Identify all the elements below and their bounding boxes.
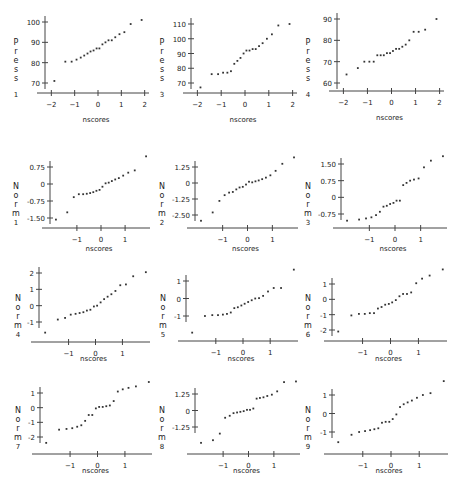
data-point	[75, 313, 77, 315]
data-point	[363, 61, 365, 63]
data-point	[364, 430, 366, 432]
x-tick-label: −2	[46, 101, 56, 109]
data-point	[271, 394, 273, 396]
data-point	[377, 308, 379, 310]
x-tick-label: −1	[362, 99, 372, 107]
y-tick-label: 0	[31, 405, 35, 413]
x-tick-label: 1	[416, 349, 420, 357]
data-point	[90, 51, 92, 53]
data-point	[66, 428, 68, 430]
data-point	[293, 269, 295, 271]
data-point	[230, 70, 232, 72]
x-axis-label: nscores	[380, 245, 407, 253]
y-axis-label-index: 7	[16, 443, 20, 451]
data-point	[239, 187, 241, 189]
y-axis-label: r	[306, 424, 310, 433]
data-point	[337, 441, 339, 443]
data-point	[222, 72, 224, 74]
data-point	[244, 303, 246, 305]
data-point	[102, 43, 104, 45]
y-axis-label: s	[160, 65, 164, 74]
y-tick-label: 80	[323, 37, 332, 45]
x-axis-label: nscores	[376, 114, 403, 122]
data-point	[266, 395, 268, 397]
y-tick-label: 0	[41, 181, 45, 189]
data-point	[92, 191, 94, 193]
data-point	[255, 48, 257, 50]
x-tick-label: −1	[217, 236, 227, 244]
x-axis-label: nscores	[376, 467, 403, 475]
y-axis-label-index: 1	[14, 91, 18, 99]
data-point	[423, 166, 425, 168]
y-axis-label: r	[161, 312, 165, 321]
data-point	[132, 275, 134, 277]
y-axis-label: N	[305, 406, 311, 415]
y-axis-label: s	[160, 74, 164, 83]
y-axis-label: r	[16, 312, 20, 321]
y-axis-label: s	[306, 74, 310, 83]
data-point	[265, 177, 267, 179]
data-point	[125, 284, 127, 286]
data-point	[410, 292, 412, 294]
data-point	[275, 170, 277, 172]
x-axis-label: nscores	[80, 355, 107, 363]
data-point	[211, 73, 213, 75]
data-point	[55, 219, 57, 221]
y-tick-label: -0.75	[318, 211, 336, 219]
y-axis-label: P	[306, 38, 311, 47]
data-point	[249, 50, 251, 52]
y-tick-label: -2	[28, 434, 35, 442]
data-point	[357, 67, 359, 69]
y-axis-label: r	[160, 424, 164, 433]
y-tick-label: 80	[177, 65, 186, 73]
data-point	[369, 312, 371, 314]
data-point	[399, 200, 401, 202]
data-point	[256, 398, 258, 400]
data-point	[224, 194, 226, 196]
data-point	[224, 417, 226, 419]
x-tick-label: 0	[99, 236, 103, 244]
data-point	[383, 54, 385, 56]
data-point	[229, 415, 231, 417]
y-axis-label: o	[161, 303, 166, 312]
y-tick-label: 0	[323, 296, 327, 304]
data-point	[371, 216, 373, 218]
y-axis-label: r	[306, 312, 310, 321]
data-point	[271, 33, 273, 35]
data-point	[273, 287, 275, 289]
y-axis-label: o	[16, 415, 21, 424]
y-axis-label-index: 9	[306, 443, 310, 451]
data-point	[430, 160, 432, 162]
y-axis-label: N	[160, 294, 166, 303]
data-point	[108, 182, 110, 184]
data-point	[236, 412, 238, 414]
data-point	[368, 61, 370, 63]
data-point	[191, 332, 193, 334]
data-point	[413, 179, 415, 181]
data-point	[422, 394, 424, 396]
data-point	[96, 48, 98, 50]
data-point	[289, 23, 291, 25]
data-point	[255, 180, 257, 182]
data-point	[218, 200, 220, 202]
data-point	[82, 193, 84, 195]
qq-panel-norm-6: -2-101−101nscoresNorm6	[300, 265, 455, 380]
y-axis-label: m	[14, 433, 22, 442]
data-point	[436, 18, 438, 20]
qq-panel-norm-8: -1.2501.25−101nscoresNorm8	[150, 375, 302, 495]
data-point	[247, 301, 249, 303]
data-point	[403, 403, 405, 405]
data-point	[127, 172, 129, 174]
qq-panel-press-4: 60708090−2−1012nscoresPress4	[300, 0, 455, 135]
y-axis-label-index: 3	[160, 91, 164, 99]
qq-panel-norm-1: -1.50-0.7500.75−101nscoresNorm1	[0, 148, 152, 273]
data-point	[277, 25, 279, 27]
data-point	[373, 428, 375, 430]
data-point	[58, 429, 60, 431]
x-tick-label: 1	[123, 236, 127, 244]
x-axis-label: nscores	[230, 116, 257, 124]
data-point	[71, 427, 73, 429]
y-tick-label: 100	[27, 19, 40, 27]
data-point	[263, 396, 265, 398]
x-tick-label: −2	[192, 101, 202, 109]
